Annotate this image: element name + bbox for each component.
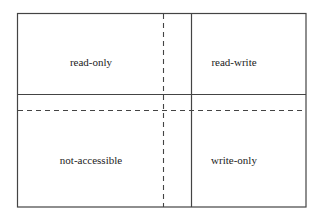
diagram-canvas (0, 0, 321, 217)
region-label-read-only: read-only (70, 57, 112, 68)
access-permission-diagram: read-only read-write not-accessible writ… (0, 0, 321, 217)
region-label-write-only: write-only (211, 155, 257, 166)
region-label-read-write: read-write (211, 57, 256, 68)
region-label-not-accessible: not-accessible (60, 155, 122, 166)
